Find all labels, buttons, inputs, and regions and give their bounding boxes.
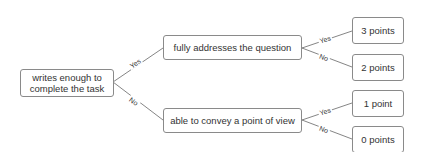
root-node: writes enough to complete the task [20, 69, 114, 97]
leaf-1-point: 1 point [352, 90, 404, 117]
node-point-of-view: able to convey a point of view [163, 108, 302, 133]
leaf-3-points: 3 points [352, 17, 404, 44]
root-label-line2: complete the task [30, 83, 104, 94]
leaf-0-points: 0 points [352, 126, 404, 152]
leaf-label: 3 points [361, 25, 394, 36]
node-label: able to convey a point of view [170, 115, 295, 126]
leaf-label: 1 point [364, 98, 393, 109]
root-label-line1: writes enough to [32, 72, 102, 83]
node-fully-addresses: fully addresses the question [163, 35, 302, 60]
leaf-2-points: 2 points [352, 54, 404, 81]
leaf-label: 2 points [361, 62, 394, 73]
node-label: fully addresses the question [174, 42, 292, 53]
leaf-label: 0 points [361, 134, 394, 145]
